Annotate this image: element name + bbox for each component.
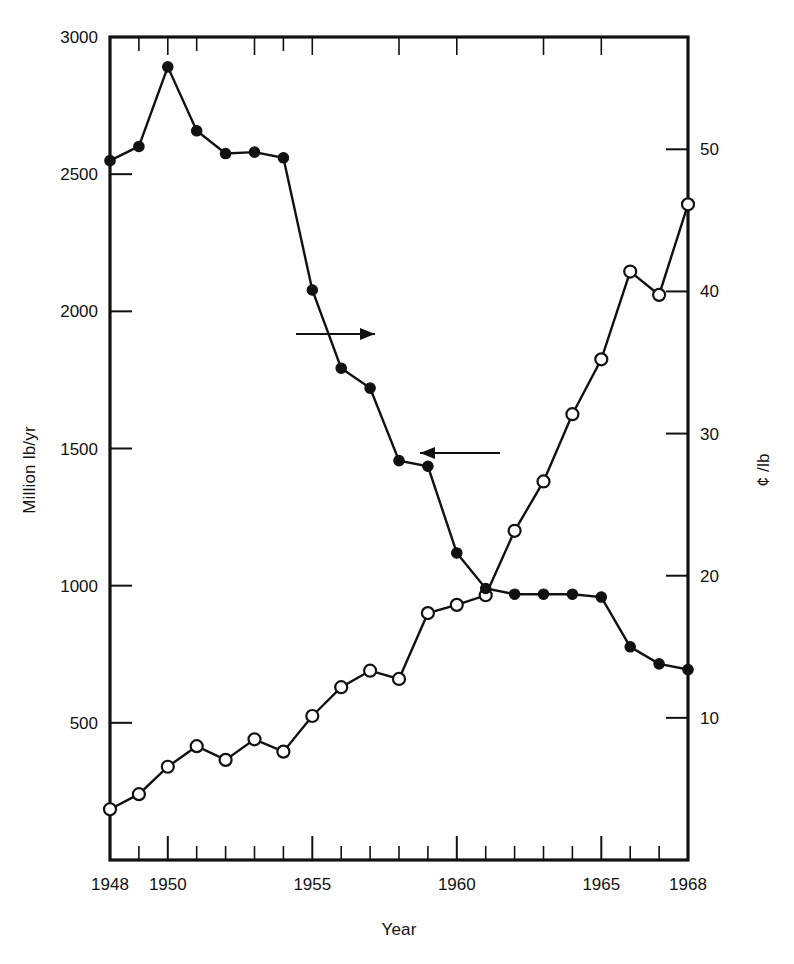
data-point-production-1955 [306,710,318,722]
left-axis-tick-label: 2000 [60,302,98,321]
right-axis-tick-label: 50 [700,140,719,159]
arrow-to-right-axis [296,328,375,340]
series-line-price [110,67,688,670]
data-point-production-1950 [162,761,174,773]
left-axis-tick-label: 2500 [60,165,98,184]
data-point-price-1949 [134,141,144,151]
data-point-production-1957 [364,665,376,677]
data-point-price-1955 [307,285,317,295]
data-point-price-1952 [220,148,230,158]
right-axis-tick-label: 30 [700,425,719,444]
right-axis-ticks [666,149,688,718]
data-point-price-1956 [336,363,346,373]
data-point-price-1957 [365,383,375,393]
y-axis-left-title: Million lb/yr [20,426,40,514]
x-axis-ticks [139,37,659,860]
x-axis-tick-label: 1960 [438,875,476,894]
data-point-price-1953 [249,147,259,157]
left-axis-ticks [110,174,132,723]
data-point-production-1956 [335,681,347,693]
left-axis-tick-label: 500 [70,714,98,733]
data-point-price-1954 [278,153,288,163]
data-point-production-1965 [595,353,607,365]
data-point-production-1953 [249,733,261,745]
data-point-production-1952 [220,754,232,766]
data-point-production-1968 [682,198,694,210]
left-axis-tick-label: 1500 [60,440,98,459]
data-point-price-1962 [509,589,519,599]
arrow-to-left-axis [420,447,500,459]
data-point-price-1968 [683,664,693,674]
data-point-production-1958 [393,673,405,685]
right-axis-tick-labels: 1020304050 [700,140,719,728]
data-point-price-1965 [596,592,606,602]
data-point-production-1949 [133,788,145,800]
series-line-production [110,204,688,809]
y-axis-right-title: ¢ /lb [754,453,774,486]
data-point-price-1959 [423,461,433,471]
left-axis-tick-labels: 50010001500200025003000 [60,28,98,733]
data-point-production-1964 [566,408,578,420]
data-point-production-1954 [277,746,289,758]
data-point-production-1962 [509,525,521,537]
x-axis-tick-label: 1948 [91,875,129,894]
data-series-group [104,62,694,816]
data-point-production-1951 [191,740,203,752]
x-axis-tick-label: 1968 [669,875,707,894]
chart-plot-area: 50010001500200025003000 1020304050 19481… [0,0,794,964]
data-point-price-1966 [625,642,635,652]
x-axis-title: Year [381,920,416,940]
data-point-production-1963 [538,475,550,487]
data-point-production-1959 [422,607,434,619]
x-axis-tick-labels: 194819501955196019651968 [91,875,707,894]
data-point-price-1948 [105,155,115,165]
data-point-price-1960 [452,548,462,558]
data-point-price-1967 [654,659,664,669]
left-axis-tick-label: 1000 [60,577,98,596]
data-point-production-1960 [451,599,463,611]
data-point-price-1951 [192,126,202,136]
right-axis-tick-label: 40 [700,282,719,301]
right-axis-tick-label: 10 [700,709,719,728]
x-axis-tick-label: 1950 [149,875,187,894]
data-point-price-1964 [567,589,577,599]
plot-frame [110,37,688,860]
data-point-production-1966 [624,266,636,278]
data-point-price-1961 [481,583,491,593]
axis-arrow-annotations [296,328,500,459]
chart-figure: 50010001500200025003000 1020304050 19481… [0,0,794,964]
x-axis-tick-label: 1965 [582,875,620,894]
data-point-price-1963 [538,589,548,599]
right-axis-tick-label: 20 [700,567,719,586]
left-axis-tick-label: 3000 [60,28,98,47]
data-point-production-1948 [104,803,116,815]
x-axis-tick-label: 1955 [293,875,331,894]
data-point-price-1958 [394,455,404,465]
data-point-production-1967 [653,289,665,301]
data-point-price-1950 [163,62,173,72]
